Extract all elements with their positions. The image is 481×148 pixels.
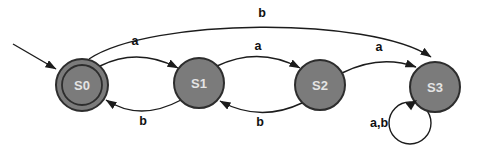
transition-S1-S2 <box>217 56 300 68</box>
transition-label-S1-S0: b <box>139 114 147 128</box>
state-label-S3: S3 <box>427 80 443 95</box>
transition-S2-S1 <box>220 101 302 113</box>
fsm-diagram: abababa,b S0S1S2S3 <box>0 0 481 148</box>
state-S3: S3 <box>410 62 460 112</box>
transition-S2-S3 <box>342 62 416 73</box>
transition-S1-S0 <box>106 100 181 111</box>
transition-label-S0-S3: b <box>258 6 266 20</box>
start-arrow <box>13 44 56 69</box>
transition-label-S2-S1: b <box>256 115 264 129</box>
transition-S0-S1 <box>100 57 178 68</box>
state-S1: S1 <box>174 58 224 108</box>
states-layer: S0S1S2S3 <box>56 58 460 112</box>
transition-label-S1-S2: a <box>255 39 263 53</box>
state-S2: S2 <box>295 60 345 110</box>
transition-label-S2-S3: a <box>376 40 384 54</box>
state-label-S1: S1 <box>191 76 207 91</box>
transition-label-S3-S3: a,b <box>370 116 388 130</box>
fsm-canvas: abababa,b S0S1S2S3 <box>0 0 481 148</box>
state-label-S2: S2 <box>312 78 328 93</box>
state-label-S0: S0 <box>74 78 90 93</box>
state-S0: S0 <box>56 59 108 111</box>
